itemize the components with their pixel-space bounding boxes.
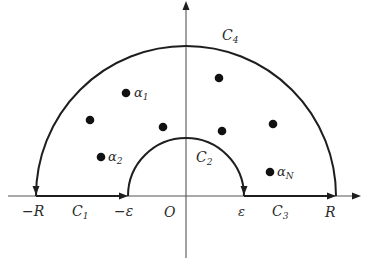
neg-eps-label: −ε [114,203,133,219]
alpha-1-label: α1 [134,85,149,102]
contour-c3 [244,193,336,200]
pole-point [266,168,275,177]
c4-label: C4 [222,27,239,45]
origin-label: O [164,204,176,220]
y-axis-arrow-icon [183,1,190,10]
c1-arrow-icon [119,193,128,200]
c3-label: C3 [272,203,289,221]
diagram-canvas: α1 α2 αN C4 C2 C1 C3 −R −ε O ε R [0,0,368,268]
imaginary-axis [183,1,190,258]
r-label: R [324,204,336,220]
c3-arrow-icon [327,193,336,200]
eps-label: ε [238,204,245,219]
pole-point [269,120,278,129]
contour-diagram: α1 α2 αN C4 C2 C1 C3 −R −ε O ε R [0,0,368,268]
c2-label: C2 [196,149,213,167]
pole-point [86,116,95,125]
pole-point [97,153,106,162]
alpha-2-label: α2 [108,149,123,166]
pole-point [215,74,224,83]
c4-arrow-icon [33,186,40,195]
alpha-n-label: αN [277,164,295,181]
c1-label: C1 [72,203,88,221]
pole-point [218,127,227,136]
c2-arrow-icon [241,186,248,195]
contour-c1 [36,193,128,200]
contour-c2 [128,138,248,196]
pole-point [159,123,168,132]
pole-point [122,89,131,98]
neg-r-label: −R [22,203,45,219]
x-axis-arrow-icon [352,193,361,200]
